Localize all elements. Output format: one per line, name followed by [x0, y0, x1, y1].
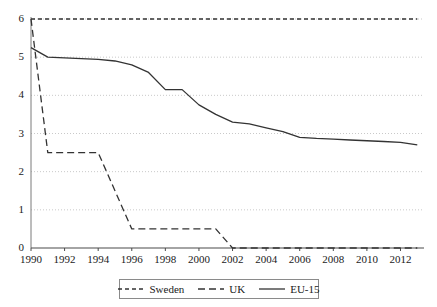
y-tick-label: 1: [2, 204, 24, 215]
chart-legend: SwedenUKEU-15: [119, 279, 319, 299]
legend-swatch-dashed-short: [118, 285, 144, 293]
legend-label: EU-15: [290, 284, 319, 295]
legend-entry-eu-15[interactable]: EU-15: [259, 284, 319, 295]
y-tick-label: 6: [2, 13, 24, 24]
line-chart: 0123456 19901992199419961998200020022004…: [0, 0, 437, 307]
legend-swatch-dashed-long: [198, 285, 224, 293]
series-line-eu-15: [31, 48, 417, 145]
legend-label: UK: [229, 284, 245, 295]
y-tick-label: 0: [2, 242, 24, 253]
legend-entry-uk[interactable]: UK: [198, 284, 245, 295]
y-tick-label: 3: [2, 128, 24, 139]
legend-label: Sweden: [149, 284, 184, 295]
y-tick-label: 5: [2, 51, 24, 62]
axes: [31, 17, 424, 248]
legend-entry-sweden[interactable]: Sweden: [118, 284, 184, 295]
x-tick-label: 2012: [380, 254, 420, 265]
legend-swatch-solid: [259, 285, 285, 293]
y-tick-label: 2: [2, 166, 24, 177]
y-tick-label: 4: [2, 89, 24, 100]
gridlines: [31, 19, 424, 210]
